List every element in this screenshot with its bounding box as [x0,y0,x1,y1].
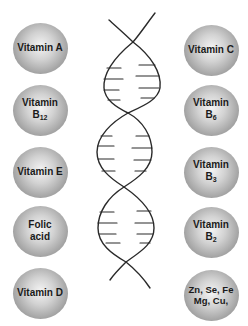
nutrient-label-line2: B6 [205,109,216,124]
nutrient-ball-folic-acid: Folicacid [13,206,68,257]
nutrient-label-line1: Vitamin [22,97,58,109]
nutrient-label-line1: Vitamin [193,219,229,231]
dna-strand-1 [97,20,160,280]
nutrient-label-line1: Vitamin C [188,44,234,56]
nutrient-label-line2: Mg, Cu, [194,295,228,307]
dna-rungs [98,65,159,243]
nutrient-label-line1: Zn, Se, Fe [189,284,234,296]
nutrient-ball-vitamin-b12: VitaminB12 [13,85,68,136]
nutrient-label-main: B [205,231,212,242]
nutrient-label-line2: B2 [205,231,216,246]
nutrient-ball-vitamin-b6: VitaminB6 [184,85,239,136]
nutrient-ball-vitamin-b2: VitaminB2 [184,207,239,258]
nutrient-label-line2: B12 [32,109,47,124]
nutrient-ball-vitamin-c: Vitamin C [184,25,239,76]
nutrient-ball-vitamin-b3: VitaminB3 [184,147,239,198]
nutrient-label-main: B [205,171,212,182]
nutrient-label-main: acid [30,231,50,242]
nutrient-label-line1: Folic [28,219,51,231]
nutrient-ball-vitamin-a: Vitamin A [13,23,68,74]
nutrient-label-line1: Vitamin [193,159,229,171]
nutrient-ball-minerals: Zn, Se, FeMg, Cu, [184,270,239,321]
nutrient-label-subscript: 6 [213,114,217,121]
nutrient-label-line2: B3 [205,171,216,186]
nutrient-label-subscript: 2 [213,236,217,243]
nutrient-ball-vitamin-e: Vitamin E [13,147,68,198]
nutrient-label-subscript: 12 [40,114,48,121]
nutrient-label-main: B [205,109,212,120]
nutrient-label-line1: Vitamin D [17,287,63,299]
nutrient-label-line1: Vitamin E [17,166,62,178]
nutrient-label-line2: acid [30,231,50,243]
nutrient-ball-vitamin-d: Vitamin D [13,268,68,319]
nutrient-label-main: B [32,109,39,120]
nutrient-label-line1: Vitamin [193,97,229,109]
nutrient-label-main: Mg, Cu, [194,295,228,306]
nutrient-label-subscript: 3 [213,176,217,183]
nutrient-label-line1: Vitamin A [17,42,63,54]
